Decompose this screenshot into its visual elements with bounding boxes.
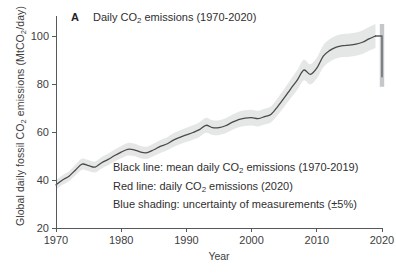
y-tick-label-60: 60 bbox=[37, 126, 49, 138]
y-tick-label-80: 80 bbox=[37, 78, 49, 90]
y-tick-group: 20406080100 bbox=[31, 30, 56, 234]
y-tick-label-20: 20 bbox=[37, 222, 49, 234]
x-tick-label-2020: 2020 bbox=[370, 234, 394, 246]
y-tick-label-100: 100 bbox=[31, 30, 49, 42]
uncertainty-band bbox=[56, 24, 375, 189]
red-2020-group bbox=[375, 24, 384, 87]
line-chart-plot: 20406080100 197019801990200020102020 bbox=[0, 0, 396, 275]
x-tick-label-2010: 2010 bbox=[305, 234, 329, 246]
x-tick-group: 197019801990200020102020 bbox=[44, 228, 394, 246]
x-tick-label-2000: 2000 bbox=[239, 234, 263, 246]
x-tick-label-1970: 1970 bbox=[44, 234, 68, 246]
y-tick-label-40: 40 bbox=[37, 174, 49, 186]
uncertainty-band-group bbox=[56, 24, 375, 189]
figure-panel-a: Global daily fossil CO2 emissions (MtCO2… bbox=[0, 0, 396, 275]
x-tick-label-1980: 1980 bbox=[109, 234, 133, 246]
x-tick-label-1990: 1990 bbox=[174, 234, 198, 246]
